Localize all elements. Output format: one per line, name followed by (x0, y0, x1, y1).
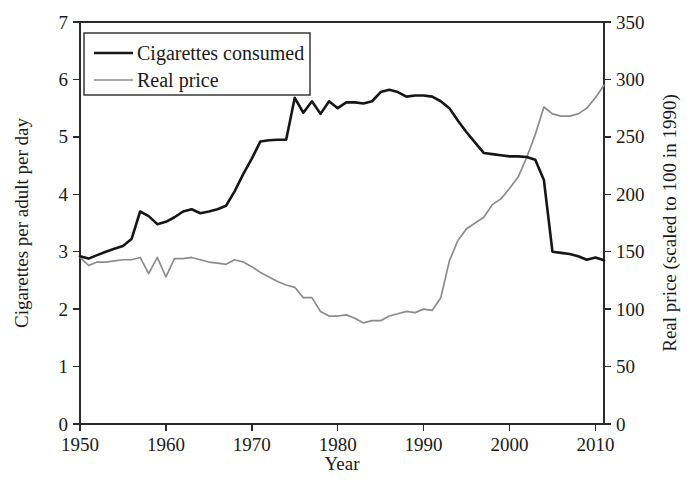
y-right-axis-title: Real price (scaled to 100 in 1990) (659, 94, 681, 351)
y-right-tick-label: 50 (616, 356, 635, 377)
x-tick-label: 1980 (319, 434, 357, 455)
y-left-tick-label: 5 (59, 126, 69, 147)
line-chart: 01234567 050100150200250300350 195019601… (0, 0, 699, 497)
y-left-tick-label: 0 (59, 414, 69, 435)
legend-label-cigarettes: Cigarettes consumed (137, 42, 304, 65)
x-tick-label: 2000 (491, 434, 529, 455)
y-right-tick-label: 0 (616, 414, 626, 435)
y-right-tick-label: 350 (616, 12, 645, 33)
y-right-tick-label: 250 (616, 126, 645, 147)
y-right-tick-label: 100 (616, 299, 645, 320)
y-left-tick-label: 7 (59, 12, 69, 33)
y-left-tick-label: 3 (59, 241, 69, 262)
x-tick-label: 1970 (233, 434, 271, 455)
y-left-tick-label: 4 (59, 184, 69, 205)
y-left-tick-label: 2 (59, 299, 69, 320)
y-right-ticks: 050100150200250300350 (604, 12, 645, 435)
series-real-price (80, 85, 604, 323)
y-left-axis-title: Cigarettes per adult per day (11, 118, 32, 328)
x-ticks: 1950196019701980199020002010 (61, 424, 614, 455)
series-cigarettes-consumed (80, 90, 604, 261)
y-right-tick-label: 300 (616, 69, 645, 90)
x-axis-title: Year (324, 453, 360, 474)
chart-figure: 01234567 050100150200250300350 195019601… (0, 0, 699, 497)
y-left-tick-label: 1 (59, 356, 69, 377)
chart-legend: Cigarettes consumed Real price (84, 33, 310, 95)
legend-label-real-price: Real price (137, 69, 219, 92)
y-left-tick-label: 6 (59, 69, 69, 90)
series-group (80, 85, 604, 323)
y-right-tick-label: 200 (616, 184, 645, 205)
x-tick-label: 1990 (405, 434, 443, 455)
x-tick-label: 1960 (147, 434, 185, 455)
y-left-ticks: 01234567 (59, 12, 81, 435)
x-tick-label: 1950 (61, 434, 99, 455)
x-tick-label: 2010 (576, 434, 614, 455)
y-right-tick-label: 150 (616, 241, 645, 262)
